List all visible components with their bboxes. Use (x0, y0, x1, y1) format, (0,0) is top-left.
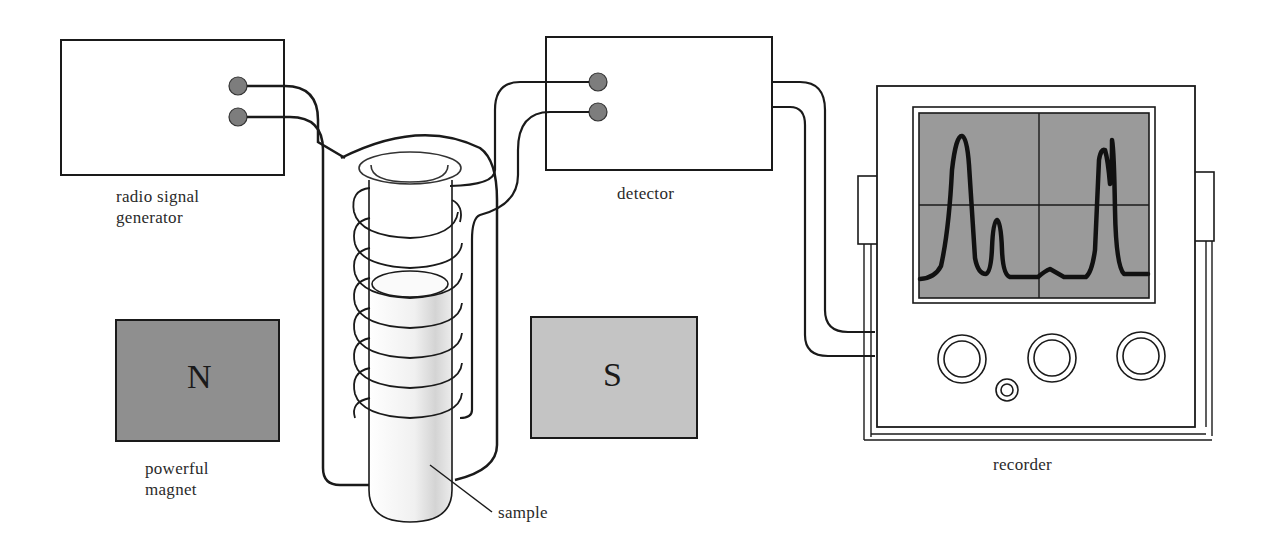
recorder-label: recorder (993, 454, 1052, 475)
magnet-label-line2: magnet (145, 479, 209, 500)
recorder-right-bracket (1194, 172, 1214, 241)
generator-terminal-1 (229, 77, 247, 95)
generator-label-line2: generator (116, 207, 199, 228)
sample-label: sample (498, 502, 548, 523)
north-pole-label: N (187, 358, 212, 396)
detector-terminal-2 (589, 103, 607, 121)
south-pole-label: S (603, 356, 622, 394)
detector-label: detector (617, 183, 674, 204)
generator-label: radio signal generator (116, 186, 199, 228)
radio-signal-generator (61, 40, 284, 175)
recorder-left-bracket (858, 176, 878, 244)
magnet-label: powerful magnet (145, 458, 209, 500)
detector-box (546, 37, 772, 170)
sample-tube (359, 152, 461, 522)
detector-terminal-1 (589, 73, 607, 91)
generator-label-line1: radio signal (116, 186, 199, 207)
recorder (858, 86, 1214, 440)
generator-terminal-2 (229, 108, 247, 126)
magnet-label-line1: powerful (145, 458, 209, 479)
